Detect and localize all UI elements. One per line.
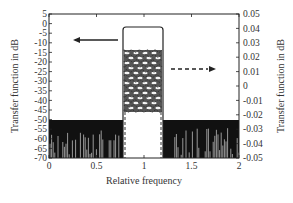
- right-y-tick-label: 0.01: [243, 67, 260, 77]
- right-y-tick-label: 0.03: [243, 38, 260, 48]
- right-y-tick-label: -0.02: [243, 110, 263, 120]
- right-y-tick-label: -0.04: [243, 139, 263, 149]
- left-y-tick-label: -5: [39, 28, 47, 38]
- x-tick-labels: 00.511.52: [47, 161, 242, 171]
- x-tick-label: 2: [237, 161, 242, 171]
- right-y-tick-label: 0.05: [243, 9, 260, 19]
- x-axis-title: Relative frequency: [106, 175, 182, 186]
- right-y-tick-label: 0.04: [243, 24, 260, 34]
- left-y-tick-label: -55: [34, 124, 47, 134]
- left-y-tick-label: -10: [34, 38, 47, 48]
- left-y-tick-label: 0: [42, 19, 47, 29]
- left-y-tick-label: -30: [34, 76, 47, 86]
- left-y-tick-label: -65: [34, 144, 47, 154]
- left-y-tick-label: -25: [34, 67, 47, 77]
- left-y-axis-title: Transfer function in dB: [9, 39, 20, 133]
- right-y-tick-label: -0.03: [243, 124, 263, 134]
- left-y-tick-label: -20: [34, 57, 47, 67]
- passband-ripple: [124, 50, 162, 113]
- x-tick-label: 0: [47, 161, 52, 171]
- stopband-noise: [49, 120, 239, 158]
- right-y-tick-label: -0.05: [243, 153, 263, 163]
- right-axis-arrow: [171, 66, 216, 72]
- x-tick-label: 1: [142, 161, 147, 171]
- left-y-tick-label: -40: [34, 96, 47, 106]
- right-y-axis-title: Transfer function in dB: [275, 39, 286, 133]
- left-y-tick-label: -35: [34, 86, 47, 96]
- right-y-tick-labels: 0.050.040.030.020.010-0.01-0.02-0.03-0.0…: [243, 9, 263, 163]
- x-tick-label: 1.5: [186, 161, 198, 171]
- left-y-tick-label: 5: [42, 9, 47, 19]
- left-axis-arrow: [73, 37, 118, 43]
- right-y-tick-label: 0: [243, 81, 248, 91]
- right-y-tick-label: -0.01: [243, 96, 263, 106]
- left-y-tick-label: -60: [34, 134, 47, 144]
- left-y-tick-labels: 50-5-10-15-20-25-30-35-40-45-50-55-60-65…: [34, 9, 47, 163]
- chart: 50-5-10-15-20-25-30-35-40-45-50-55-60-65…: [0, 0, 293, 203]
- x-tick-label: 0.5: [91, 161, 103, 171]
- left-y-tick-label: -15: [34, 48, 47, 58]
- left-y-tick-label: -50: [34, 115, 47, 125]
- right-y-tick-label: 0.02: [243, 52, 260, 62]
- left-y-tick-label: -70: [34, 153, 47, 163]
- left-y-tick-label: -45: [34, 105, 47, 115]
